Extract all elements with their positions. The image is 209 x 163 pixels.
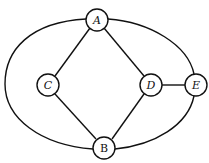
- graph-diagram: A B C D E: [0, 0, 209, 163]
- node-a: A: [86, 9, 108, 31]
- node-d: D: [140, 74, 162, 96]
- node-e: E: [185, 74, 207, 96]
- edge-a-c: [55, 28, 90, 76]
- node-d-label: D: [146, 79, 156, 92]
- edge-c-b: [55, 94, 96, 139]
- node-b: B: [93, 137, 115, 159]
- edge-d-b: [112, 94, 144, 139]
- node-e-label: E: [191, 79, 200, 92]
- node-a-label: A: [92, 14, 101, 27]
- node-c-label: C: [44, 79, 53, 92]
- edge-a-d: [104, 28, 144, 76]
- edge-a-e-outer-top-right: [108, 19, 194, 74]
- node-b-label: B: [100, 142, 108, 155]
- node-c: C: [37, 74, 59, 96]
- edge-e-b-outer-bottom-right: [115, 96, 194, 149]
